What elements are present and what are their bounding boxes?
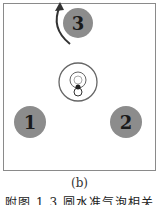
foot-screw-3: 3 — [63, 8, 93, 38]
svg-text:1: 1 — [24, 112, 37, 133]
figure-caption: 附图 1.3 圆水准气泡相关 — [0, 193, 159, 205]
foot-screw-2: 2 — [110, 106, 142, 138]
bubble-level-icon — [59, 63, 97, 101]
diagram: 3 1 2 — [0, 0, 159, 205]
foot-screw-1: 1 — [14, 106, 46, 138]
subfigure-label: (b) — [0, 176, 159, 190]
svg-text:2: 2 — [120, 112, 133, 133]
svg-text:3: 3 — [72, 13, 85, 34]
